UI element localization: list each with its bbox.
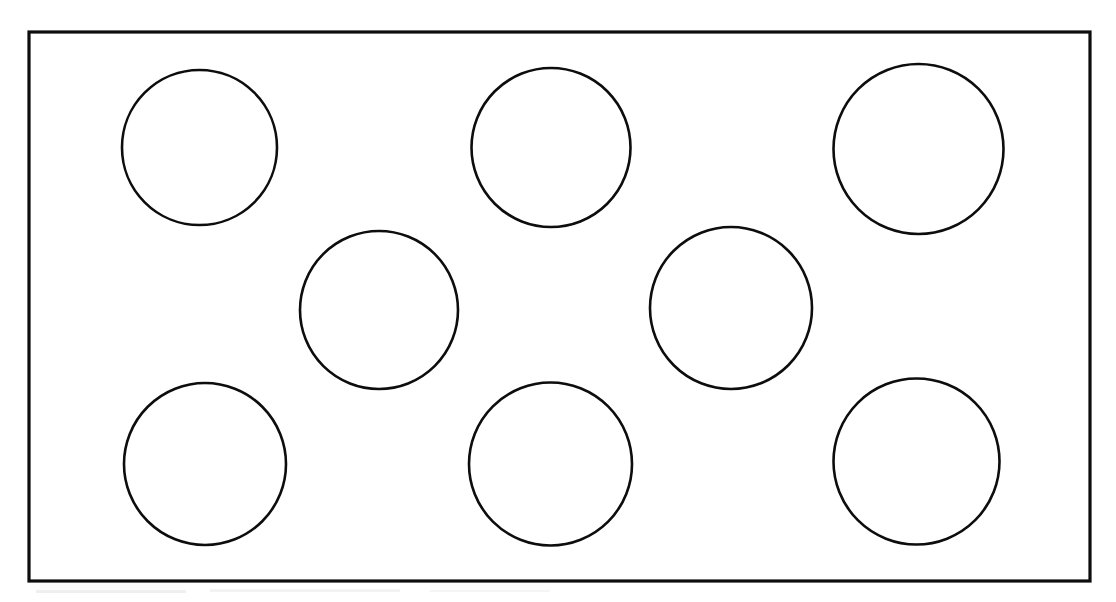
top-left-circle: [122, 70, 277, 225]
middle-right-circle: [650, 227, 812, 389]
bottom-right-circle: [834, 379, 1000, 545]
holes-group: [122, 64, 1004, 546]
smudge-below-left: [36, 590, 186, 593]
line-drawing: [0, 0, 1116, 602]
outer-rectangle: [29, 32, 1090, 581]
top-right-circle: [834, 64, 1004, 234]
smudge-below-center: [210, 589, 400, 592]
middle-left-circle: [300, 231, 458, 389]
figure-canvas: [0, 0, 1116, 602]
scan-artifacts-group: [36, 589, 550, 593]
smudge-below-right: [430, 590, 550, 592]
bottom-center-circle: [469, 383, 632, 546]
bottom-left-circle: [124, 383, 286, 545]
top-center-circle: [472, 68, 631, 227]
